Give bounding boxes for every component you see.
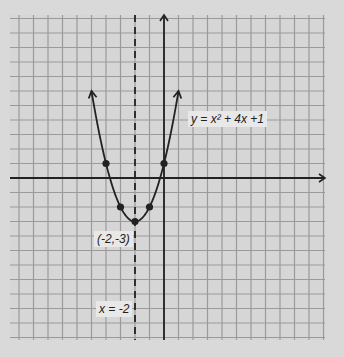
- plotted-point: [146, 203, 153, 210]
- equation-label: y = x² + 4x +1: [188, 111, 267, 127]
- plotted-point: [160, 160, 167, 167]
- plotted-point: [131, 218, 138, 225]
- axis-of-symmetry-label: x = -2: [96, 301, 132, 317]
- vertex-label: (-2,-3): [94, 231, 133, 247]
- plotted-point: [102, 160, 109, 167]
- plotted-point: [117, 203, 124, 210]
- coordinate-plane: [0, 0, 344, 357]
